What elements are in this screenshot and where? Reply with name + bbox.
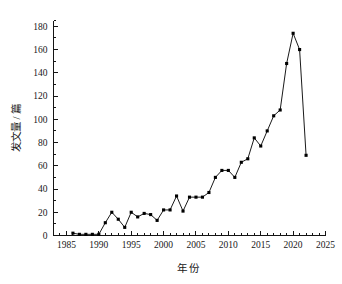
y-tick-label: 20 <box>38 208 48 218</box>
data-series-publication-count <box>71 32 307 236</box>
data-point-marker <box>97 233 100 236</box>
axis-spine <box>54 21 326 236</box>
data-point-marker <box>188 196 191 199</box>
data-point-marker <box>162 208 165 211</box>
data-point-marker <box>156 219 159 222</box>
data-point-marker <box>259 144 262 147</box>
data-point-marker <box>207 191 210 194</box>
data-point-marker <box>272 114 275 117</box>
series-line <box>73 33 306 234</box>
data-point-marker <box>169 208 172 211</box>
x-tick-label: 1985 <box>57 240 76 250</box>
x-tick-label: 2010 <box>219 240 238 250</box>
data-point-marker <box>104 221 107 224</box>
data-point-marker <box>292 32 295 35</box>
chart-figure: 198519901995200020052010201520202025 020… <box>0 0 342 284</box>
data-point-marker <box>201 196 204 199</box>
chart-ticks <box>54 21 326 236</box>
data-point-marker <box>214 176 217 179</box>
data-point-marker <box>279 108 282 111</box>
data-point-marker <box>233 176 236 179</box>
y-tick-label: 60 <box>38 161 48 171</box>
data-point-marker <box>110 211 113 214</box>
y-tick-label: 180 <box>33 22 48 32</box>
data-point-marker <box>194 196 197 199</box>
data-point-marker <box>130 211 133 214</box>
data-point-marker <box>266 129 269 132</box>
data-point-marker <box>227 169 230 172</box>
data-point-marker <box>78 233 81 236</box>
x-axis-title: 年 份 <box>177 262 201 274</box>
data-point-marker <box>71 232 74 235</box>
x-tick-label: 2000 <box>154 240 173 250</box>
y-tick-label: 140 <box>33 68 48 78</box>
y-tick-label: 0 <box>43 231 48 241</box>
y-tick-label: 100 <box>33 115 48 125</box>
data-point-marker <box>298 48 301 51</box>
data-point-marker <box>117 218 120 221</box>
x-tick-label: 2020 <box>284 240 303 250</box>
y-tick-label: 80 <box>38 138 48 148</box>
x-tick-label: 1995 <box>122 240 141 250</box>
y-tick-label: 40 <box>38 184 48 194</box>
data-point-marker <box>136 215 139 218</box>
data-point-marker <box>84 233 87 236</box>
data-point-marker <box>220 169 223 172</box>
y-tick-label: 120 <box>33 91 48 101</box>
publication-count-line-chart: 198519901995200020052010201520202025 020… <box>0 0 342 284</box>
x-tick-label: 2015 <box>251 240 270 250</box>
data-point-marker <box>91 233 94 236</box>
data-point-marker <box>253 136 256 139</box>
x-tick-label: 2025 <box>316 240 335 250</box>
chart-axes <box>54 21 326 236</box>
x-tick-label: 1990 <box>89 240 108 250</box>
x-axis-tick-labels: 198519901995200020052010201520202025 <box>57 240 335 250</box>
data-point-marker <box>246 157 249 160</box>
data-point-marker <box>149 213 152 216</box>
data-point-marker <box>143 212 146 215</box>
data-point-marker <box>123 226 126 229</box>
y-tick-label: 160 <box>33 45 48 55</box>
data-point-marker <box>240 161 243 164</box>
data-point-marker <box>285 62 288 65</box>
y-axis-tick-labels: 020406080100120140160180 <box>33 22 48 241</box>
data-point-marker <box>305 154 308 157</box>
data-point-marker <box>175 194 178 197</box>
y-axis-title: 发文量 / 篇 <box>10 104 22 152</box>
x-tick-label: 2005 <box>186 240 205 250</box>
data-point-marker <box>181 210 184 213</box>
